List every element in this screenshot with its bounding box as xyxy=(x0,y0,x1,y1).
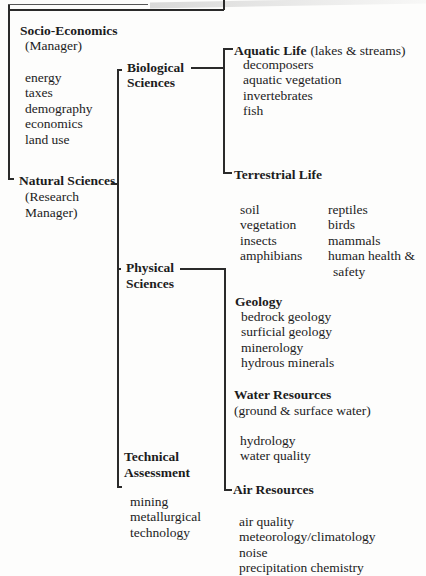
list-item: land use xyxy=(25,132,92,147)
technical-assessment-items: mining metallurgical technology xyxy=(130,494,201,540)
bracket-tick-biological xyxy=(117,69,122,71)
node-socio-economics-role: (Manager) xyxy=(25,38,82,53)
page-edge-shadow xyxy=(150,0,426,8)
list-item: economics xyxy=(25,116,92,131)
root-bracket-vertical xyxy=(8,10,10,179)
list-item: precipitation chemistry xyxy=(239,560,375,575)
bracket-tick-terrestrial xyxy=(223,172,232,174)
list-item: aquatic vegetation xyxy=(243,72,342,87)
list-item: mammals xyxy=(328,233,415,248)
list-item: water quality xyxy=(240,448,311,463)
terrestrial-life-items-col2: reptiles birds mammals human health & sa… xyxy=(328,202,415,279)
list-item: reptiles xyxy=(328,202,415,217)
node-aquatic-life-title: Aquatic Life xyxy=(234,43,306,58)
list-item: human health & xyxy=(328,248,415,263)
list-item: birds xyxy=(328,217,415,232)
list-item: decomposers xyxy=(243,57,342,72)
list-item: hydrology xyxy=(240,433,311,448)
list-item: taxes xyxy=(25,85,92,100)
biological-bracket-vertical xyxy=(223,48,225,173)
node-natural-sciences-role-2: Manager) xyxy=(25,205,77,220)
top-box-right-edge xyxy=(223,0,225,10)
aquatic-life-items: decomposers aquatic vegetation invertebr… xyxy=(243,57,342,119)
root-bracket-tick-natural xyxy=(8,178,14,180)
list-item: invertebrates xyxy=(243,88,342,103)
geology-items: bedrock geology surficial geology minero… xyxy=(241,309,334,371)
node-biological-sciences-title-1: Biological xyxy=(127,60,184,75)
node-physical-sciences-title-2: Sciences xyxy=(126,276,174,291)
node-aquatic-life-subtitle: (lakes & streams) xyxy=(310,43,405,58)
list-item: bedrock geology xyxy=(241,309,334,324)
node-technical-assessment-title-2: Assessment xyxy=(124,465,190,480)
water-resources-items: hydrology water quality xyxy=(240,433,311,464)
terrestrial-life-items-col1: soil vegetation insects amphibians xyxy=(240,202,302,264)
list-item: metallurgical xyxy=(130,509,201,524)
list-item: technology xyxy=(130,525,201,540)
top-box-top-edge xyxy=(8,4,148,5)
list-item: fish xyxy=(243,103,342,118)
list-item: insects xyxy=(240,233,302,248)
biological-connector xyxy=(191,67,224,69)
list-item: noise xyxy=(239,545,375,560)
air-resources-items: air quality meteorology/climatology nois… xyxy=(239,514,375,576)
top-box-bottom-edge xyxy=(8,9,224,11)
bracket-tick-air xyxy=(224,489,232,491)
node-biological-sciences-title-2: Sciences xyxy=(127,75,175,90)
node-air-resources-title: Air Resources xyxy=(233,482,314,497)
node-terrestrial-life-title: Terrestrial Life xyxy=(234,167,322,182)
list-item: energy xyxy=(25,70,92,85)
node-water-resources-subtitle: (ground & surface water) xyxy=(234,403,371,418)
node-geology-title: Geology xyxy=(235,294,282,309)
list-item: minerology xyxy=(241,340,334,355)
list-item: demography xyxy=(25,101,92,116)
node-natural-sciences-role-1: (Research xyxy=(25,189,79,204)
list-item: vegetation xyxy=(240,217,302,232)
node-water-resources-title: Water Resources xyxy=(234,387,331,402)
bracket-tick-aquatic xyxy=(223,48,233,50)
list-item: amphibians xyxy=(240,248,302,263)
list-item: surficial geology xyxy=(241,324,334,339)
list-item: air quality xyxy=(239,514,375,529)
natural-sciences-bracket-vertical xyxy=(117,69,119,487)
list-item: hydrous minerals xyxy=(241,355,334,370)
bracket-tick-physical xyxy=(117,268,121,270)
list-item: safety xyxy=(328,264,415,279)
socio-economics-items: energy taxes demography economics land u… xyxy=(25,70,92,147)
node-physical-sciences-title-1: Physical xyxy=(126,260,174,275)
physical-bracket-vertical xyxy=(224,268,226,490)
node-technical-assessment-title-1: Technical xyxy=(124,449,179,464)
list-item: soil xyxy=(240,202,302,217)
node-natural-sciences-title: Natural Sciences xyxy=(19,173,115,188)
physical-connector xyxy=(180,268,225,270)
list-item: meteorology/climatology xyxy=(239,529,375,544)
node-socio-economics-title: Socio-Economics xyxy=(20,23,118,38)
list-item: mining xyxy=(130,494,201,509)
bracket-tick-technical xyxy=(117,486,122,488)
